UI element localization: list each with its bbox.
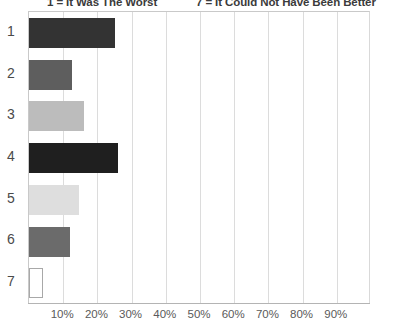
bar-row [29,95,369,137]
bar-row [29,54,369,96]
scale-legend-high-label: 7 = It Could Not Have Been Better [196,0,376,8]
x-axis-label-50: 50% [187,308,210,320]
bar-3 [29,101,84,131]
y-axis-label-4: 4 [0,148,22,164]
y-axis-label-5: 5 [0,190,22,206]
x-axis-label-30: 30% [119,308,142,320]
x-axis-label-80: 80% [290,308,313,320]
x-axis-label-70: 70% [256,308,279,320]
x-axis-label-10: 10% [51,308,74,320]
scale-legend-low-label: 1 = It Was The Worst [47,0,157,8]
bar-row [29,262,369,304]
bar-rows [29,12,369,303]
bar-row [29,179,369,221]
horizontal-bar-chart: 1 = It Was The Worst 7 = It Could Not Ha… [0,0,393,333]
y-axis-label-3: 3 [0,106,22,122]
x-axis-label-90: 90% [324,308,347,320]
bar-2 [29,60,72,90]
x-axis-label-20: 20% [85,308,108,320]
y-axis-label-2: 2 [0,65,22,81]
bar-row [29,12,369,54]
plot-area [28,11,370,303]
x-axis-line [28,303,370,304]
x-axis-tick-labels: 10%20%30%40%50%60%70%80%90% [0,308,393,328]
x-axis-label-60: 60% [222,308,245,320]
bar-row [29,137,369,179]
y-axis-category-labels: 1234567 [0,11,28,303]
x-axis-label-40: 40% [153,308,176,320]
bar-7 [29,268,43,298]
y-axis-label-6: 6 [0,231,22,247]
bar-4 [29,143,118,173]
y-axis-label-1: 1 [0,23,22,39]
y-axis-label-7: 7 [0,273,22,289]
bar-1 [29,18,115,48]
bar-5 [29,185,79,215]
chart-scale-legend: 1 = It Was The Worst 7 = It Could Not Ha… [0,0,393,10]
bar-row [29,221,369,263]
bar-6 [29,227,70,257]
